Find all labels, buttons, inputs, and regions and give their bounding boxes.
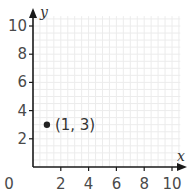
x-tick-label: 10 bbox=[162, 175, 181, 193]
x-axis-label: x bbox=[177, 148, 185, 164]
origin-label: 0 bbox=[4, 175, 14, 193]
coordinate-plane: yx 2468102468100 (1, 3) bbox=[0, 0, 193, 196]
y-tick-label: 8 bbox=[17, 45, 27, 63]
data-point bbox=[44, 122, 50, 128]
x-tick-label: 2 bbox=[56, 175, 66, 193]
x-tick-label: 8 bbox=[139, 175, 149, 193]
grid bbox=[33, 16, 180, 167]
y-tick-label: 4 bbox=[17, 102, 27, 120]
y-axis-arrow-icon bbox=[29, 8, 37, 18]
data-point-label: (1, 3) bbox=[55, 116, 95, 134]
y-axis-label: y bbox=[39, 4, 49, 20]
x-tick-label: 4 bbox=[84, 175, 94, 193]
y-tick-label: 10 bbox=[8, 17, 27, 35]
x-axis-arrow-icon bbox=[177, 163, 187, 171]
y-tick-label: 2 bbox=[17, 130, 27, 148]
x-tick-label: 6 bbox=[112, 175, 122, 193]
y-tick-label: 6 bbox=[17, 73, 27, 91]
